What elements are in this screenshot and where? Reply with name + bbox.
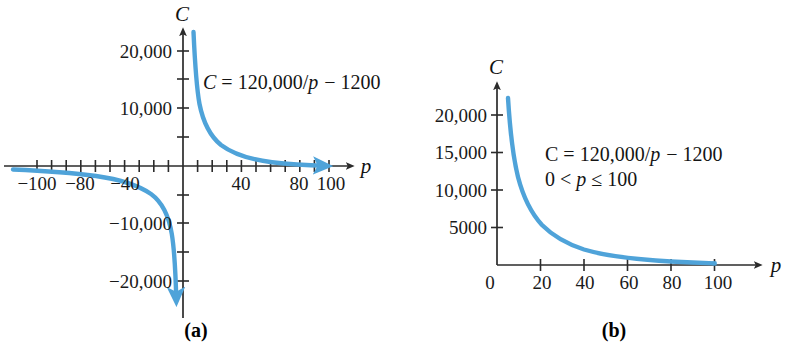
figure-root: −100 −80 −40 40 80 100 20,000 10,000 −10…	[0, 0, 798, 350]
panel-b-equation-eq: =	[563, 143, 574, 165]
panel-a-xtick-label-neg100: −100	[17, 173, 56, 194]
panel-b-equation-lhs: C	[545, 143, 558, 165]
panel-b-equation-num: 120,000/	[580, 143, 651, 165]
panel-a-xtick-label-neg40: −40	[110, 173, 140, 194]
panel-b: 0 20 40 60 80 100 20,000 15,000 10,000 5…	[435, 55, 782, 342]
panel-b-ytick-label-20000: 20,000	[435, 105, 487, 126]
panel-b-xtick-label-60: 60	[620, 272, 639, 293]
panel-a-xtick-label-100: 100	[317, 173, 346, 194]
panel-b-x-axis-label: p	[769, 253, 782, 277]
panel-b-equation-line2: 0 <p≤ 100	[545, 168, 637, 191]
panel-a-caption: (a)	[184, 319, 207, 342]
panel-a-equation-lhs: C	[203, 71, 217, 93]
textbook-figure-svg: −100 −80 −40 40 80 100 20,000 10,000 −10…	[0, 0, 798, 350]
panel-a: −100 −80 −40 40 80 100 20,000 10,000 −10…	[4, 2, 380, 342]
panel-b-equation-var: p	[648, 143, 660, 166]
panel-a-x-axis-label: p	[359, 154, 372, 178]
panel-b-xtick-label-100: 100	[704, 272, 733, 293]
panel-b-equation-minus: −	[666, 143, 677, 165]
panel-a-xtick-label-80: 80	[290, 173, 309, 194]
panel-b-domain-var: p	[574, 168, 586, 191]
panel-a-xtick-label-40: 40	[232, 173, 251, 194]
panel-b-caption: (b)	[602, 319, 626, 342]
panel-b-domain-right: ≤ 100	[591, 168, 637, 190]
panel-a-equation: C=120,000/p−1200	[203, 71, 380, 94]
panel-b-y-axis-label: C	[489, 55, 504, 79]
panel-a-right-branch	[194, 32, 327, 166]
panel-b-xtick-label-20: 20	[533, 272, 552, 293]
panel-b-equation-line1: C=120,000/p−1200	[545, 143, 722, 166]
panel-a-xtick-label-neg80: −80	[65, 173, 95, 194]
panel-a-ytick-label-20000: 20,000	[120, 41, 172, 62]
panel-b-equation-const: 1200	[682, 143, 722, 165]
panel-a-equation-num: 120,000/	[238, 71, 309, 93]
panel-b-domain-left: 0 <	[545, 168, 571, 190]
panel-a-equation-eq: =	[221, 71, 232, 93]
panel-b-xtick-label-40: 40	[576, 272, 595, 293]
panel-a-ytick-label-10000: 10,000	[120, 98, 172, 119]
panel-b-ytick-label-5000: 5000	[449, 217, 487, 238]
panel-a-ytick-label-neg20000: −20,000	[109, 271, 172, 292]
panel-a-ytick-label-neg10000: −10,000	[109, 213, 172, 234]
panel-b-xtick-label-80: 80	[663, 272, 682, 293]
panel-b-ytick-label-10000: 10,000	[435, 180, 487, 201]
panel-b-xtick-label-0: 0	[485, 272, 495, 293]
panel-a-equation-minus: −	[324, 71, 335, 93]
panel-a-equation-var: p	[306, 71, 318, 94]
panel-b-ytick-label-15000: 15,000	[435, 142, 487, 163]
panel-a-equation-const: 1200	[340, 71, 380, 93]
panel-a-y-axis-label: C	[175, 2, 190, 26]
